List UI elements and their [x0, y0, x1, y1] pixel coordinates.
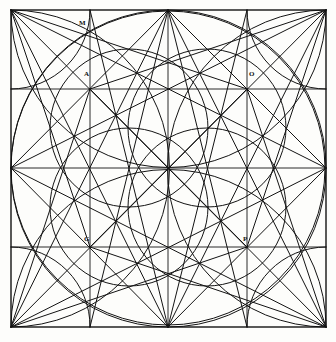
- point-label-a: A: [84, 71, 89, 78]
- point-label-m: M: [79, 20, 86, 27]
- corner-chord-7: [90, 247, 326, 327]
- corner-chord-5: [11, 247, 247, 327]
- point-label-p: P: [243, 236, 247, 243]
- point-label-g: G: [84, 236, 89, 243]
- geometry-figure: M A O G P: [0, 0, 336, 342]
- corner-chord-8: [247, 89, 326, 327]
- geometry-canvas: [0, 0, 336, 342]
- corner-chord-4: [247, 10, 326, 247]
- point-label-o: O: [249, 71, 254, 78]
